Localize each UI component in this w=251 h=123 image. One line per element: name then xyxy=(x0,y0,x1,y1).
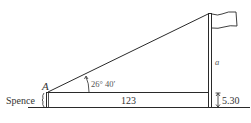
flag-icon xyxy=(212,12,237,29)
pole-height-label: a xyxy=(215,57,219,67)
spence-brace-icon xyxy=(42,93,44,107)
building-label: Spence xyxy=(6,95,35,106)
line-of-sight xyxy=(48,14,208,92)
angle-of-elevation-diagram: A Spence 26° 40′ a 123 5.30 xyxy=(0,0,251,123)
point-a-label: A xyxy=(41,80,49,92)
angle-label: 26° 40′ xyxy=(91,79,116,89)
distance-label: 123 xyxy=(121,95,136,106)
angle-arc xyxy=(86,77,89,92)
building-height-label: 5.30 xyxy=(222,95,240,106)
